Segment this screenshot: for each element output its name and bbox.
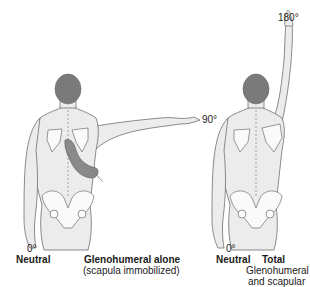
right-end-angle: 180° bbox=[278, 12, 299, 23]
left-figure-head bbox=[55, 74, 81, 104]
left-panel-subtitle: (scapula immobilized) bbox=[83, 265, 180, 276]
right-panel-title: Total bbox=[262, 254, 285, 265]
right-figure-head bbox=[243, 74, 269, 104]
right-panel-subtitle-line2: and scapular bbox=[248, 276, 305, 287]
right-start-angle: 0° bbox=[226, 243, 236, 254]
left-panel-title: Glenohumeral alone bbox=[84, 254, 180, 265]
right-start-label: Neutral bbox=[216, 254, 250, 265]
right-panel-subtitle-line1: Glenohumeral bbox=[246, 265, 309, 276]
left-start-angle: 0° bbox=[27, 243, 37, 254]
left-start-label: Neutral bbox=[16, 254, 50, 265]
left-end-angle: 90° bbox=[202, 114, 217, 125]
left-figure-body bbox=[24, 98, 200, 250]
